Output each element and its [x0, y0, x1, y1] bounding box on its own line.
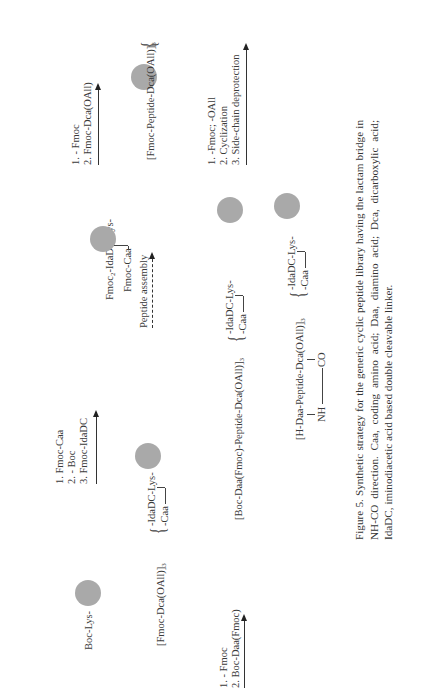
brace-top-label: -IdaDC-Lys-	[146, 472, 158, 526]
step4-conditions: 1. -Fmoc; -OAll 2. Cyclization 3. Side-c…	[206, 54, 242, 165]
caa-connector	[165, 488, 166, 504]
brace-left: {	[146, 528, 168, 534]
row3-brace-top: -IdaDC-Lys-	[224, 280, 236, 334]
figure-caption: Figure 5. Synthetic strategy for the gen…	[352, 120, 396, 540]
step1-line3: 3. Fmoc-IdaDC	[78, 418, 90, 484]
row4-brace-bottom: -Caa	[299, 270, 311, 290]
resin-bead-5	[217, 197, 243, 223]
branch-connector	[114, 245, 128, 246]
lactam-bridge-line	[322, 368, 323, 404]
peptide-assembly-label: Peptide assembly	[138, 255, 150, 328]
step2-arrow	[98, 85, 99, 165]
nh-label: NH	[316, 407, 328, 422]
step1-arrow	[96, 412, 97, 484]
step3-conditions: 1. - Fmoc 2. Boc-Daa(Fmoc)	[218, 609, 242, 688]
co-label: CO	[316, 352, 328, 367]
nh-bond	[307, 414, 315, 415]
co-bond	[307, 359, 315, 360]
step3-line2: 2. Boc-Daa(Fmoc)	[230, 609, 242, 688]
step3-arrow	[244, 616, 245, 688]
fmoc-caa-branch-label: Fmoc-Caa	[122, 248, 134, 292]
h-daa-peptide-label: [H-Daa-Peptide-Dca(OAll)]3	[294, 318, 309, 440]
step1-line1: 1. Fmoc-Caa	[54, 418, 66, 484]
row3-brace-bottom: -Caa	[237, 314, 249, 334]
brace-row3: {	[224, 336, 246, 342]
branch-connector-tick	[128, 246, 129, 250]
row4-brace-top: -IdaDC-Lys-	[286, 236, 298, 290]
step2-conditions: 1. - Fmoc 2. Fmoc-Dca(OAll)	[70, 82, 94, 165]
step4-line1: 1. -Fmoc; -OAll	[206, 54, 218, 165]
brace-bottom-label: -Caa	[159, 506, 171, 526]
step1-conditions: 1. Fmoc-Caa 2. - Boc 3. Fmoc-IdaDC	[54, 418, 90, 484]
step3-line1: 1. - Fmoc	[218, 609, 230, 688]
brace-row4: {	[286, 292, 308, 298]
resin-bead-6	[274, 193, 300, 219]
row4-caa-up	[297, 251, 305, 252]
step4-arrow	[246, 45, 247, 165]
caa-connector-up	[157, 487, 165, 488]
peptide-assembly-arrow	[152, 254, 153, 328]
brace-right: {	[137, 42, 159, 48]
resin-bead-4	[135, 443, 161, 469]
resin-bead-2	[90, 226, 116, 252]
boc-lys-label: Boc-Lys-	[83, 611, 95, 650]
step1-line2: 2. - Boc	[66, 418, 78, 484]
row3-caa-up	[235, 295, 243, 296]
step2-line1: 1. - Fmoc	[70, 82, 82, 165]
step4-line2: 2. Cyclization	[218, 54, 230, 165]
boc-daa-peptide-label: [Boc-Daa(Fmoc)-Peptide-Dca(OAll)]3	[233, 358, 248, 520]
row3-caa-connector	[243, 296, 244, 312]
row4-caa-connector	[305, 252, 306, 268]
step2-line2: 2. Fmoc-Dca(OAll)	[82, 82, 94, 165]
resin-bead-1	[75, 580, 101, 606]
fmoc-peptide-dca-label: [Fmoc-Peptide-Dca(OAll)]3	[145, 42, 160, 160]
fmoc-dca-oall-3-label: [Fmoc-Dca(OAll)]3	[155, 563, 170, 646]
step4-line3: 3. Side-chain deprotection	[230, 54, 242, 165]
